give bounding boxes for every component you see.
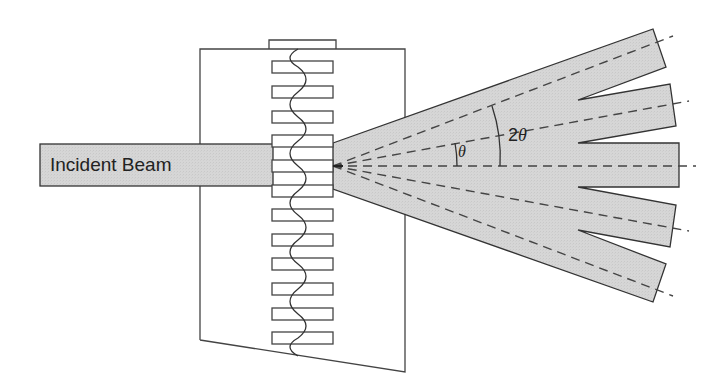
- theta-label: θ: [458, 143, 466, 161]
- two-theta-label: 2θ: [508, 125, 527, 146]
- two-theta-symbol: θ: [518, 125, 527, 145]
- frame-top-tab: [269, 40, 336, 49]
- incident-beam-label: Incident Beam: [50, 154, 171, 176]
- grating-slits: [272, 61, 333, 344]
- diffraction-diagram: [0, 0, 726, 388]
- two-theta-prefix: 2: [508, 125, 518, 145]
